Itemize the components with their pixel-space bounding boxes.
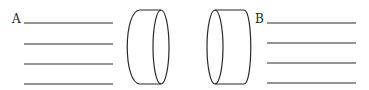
left-cylinder	[127, 10, 169, 84]
diagram	[0, 0, 369, 90]
right-lines	[267, 23, 356, 83]
left-lines	[24, 23, 113, 84]
right-cylinder	[207, 10, 251, 84]
